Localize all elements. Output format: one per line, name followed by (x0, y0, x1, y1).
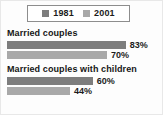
bar-value-label: 83% (130, 41, 148, 50)
bar-1981 (7, 41, 126, 49)
bar-value-label: 70% (111, 51, 129, 60)
bar-row: 60% (7, 77, 159, 85)
group-title: Married couples (7, 28, 159, 39)
bar-1981 (7, 77, 93, 85)
bar-list: 60% 44% (7, 77, 159, 95)
legend-swatch-2001-icon (83, 10, 90, 17)
bar-group-married-couples-with-children: Married couples with children 60% 44% (7, 64, 159, 97)
bar-group-married-couples: Married couples 83% 70% (7, 28, 159, 61)
legend-label-1981: 1981 (53, 9, 74, 18)
legend-item-1981: 1981 (42, 9, 74, 18)
legend-swatch-1981-icon (42, 10, 49, 17)
bar-row: 44% (7, 87, 159, 95)
bar-value-label: 60% (97, 77, 115, 86)
group-title: Married couples with children (7, 64, 159, 75)
bar-chart: 1981 2001 Married couples 83% 70% Marrie… (0, 0, 163, 115)
legend-item-2001: 2001 (83, 9, 115, 18)
bar-2001 (7, 51, 107, 59)
legend-label-2001: 2001 (94, 9, 115, 18)
chart-legend: 1981 2001 (27, 5, 130, 22)
bar-value-label: 44% (74, 87, 92, 96)
bar-row: 70% (7, 51, 159, 59)
bar-list: 83% 70% (7, 41, 159, 59)
bar-2001 (7, 87, 70, 95)
bar-row: 83% (7, 41, 159, 49)
